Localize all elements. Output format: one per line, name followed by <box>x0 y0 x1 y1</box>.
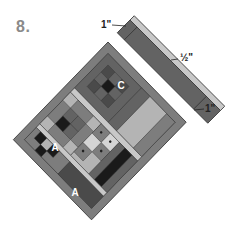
leader-line-top <box>112 25 126 26</box>
dimension-label-middle: ½" <box>180 53 193 63</box>
block-label-c: C <box>117 80 124 91</box>
block-label-a-1: A <box>51 142 58 153</box>
dimension-label-top: 1" <box>101 20 111 30</box>
quilt-illustration: C A B A <box>0 0 225 227</box>
block-label-a-2: A <box>71 187 78 198</box>
block-label-b: B <box>109 163 116 174</box>
quilt-assembly-diagram: 8. <box>0 0 225 227</box>
dimension-label-bottom: 1" <box>205 104 215 114</box>
